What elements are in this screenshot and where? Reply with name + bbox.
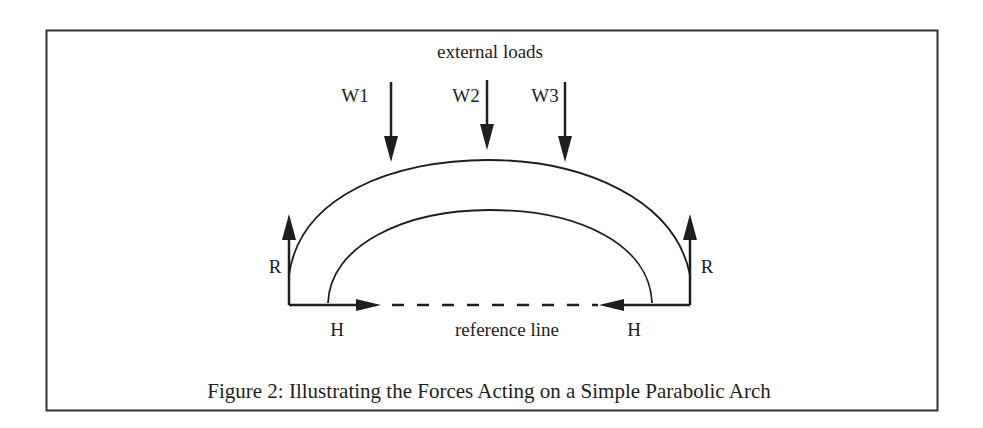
inner-arch [328,210,652,303]
thrust-left-label: H [330,319,344,340]
arrowhead-icon [599,299,624,311]
load-w2: W2 [452,80,494,150]
figure-caption: Figure 2: Illustrating the Forces Acting… [207,379,771,403]
outer-arch [289,160,690,275]
arrowhead-icon [282,214,296,240]
reaction-right-label: R [701,256,714,277]
arrowhead-icon [683,214,697,240]
reaction-right: R [683,214,714,305]
figure-frame [47,31,938,411]
external-loads-label: external loads [437,41,543,62]
arch-forces-diagram: external loads W1 W2 W3 R R H H [0,0,983,428]
load-w3: W3 [531,82,572,162]
thrust-right: H [599,299,690,340]
arrowhead-icon [356,299,381,311]
reaction-left-label: R [269,256,282,277]
thrust-right-label: H [627,319,641,340]
arrowhead-icon [480,124,494,150]
load-w1: W1 [341,82,398,162]
load-w1-label: W1 [341,85,368,106]
reference-line-label: reference line [455,319,559,340]
load-w2-label: W2 [452,85,479,106]
thrust-left: H [289,299,381,340]
load-w3-label: W3 [531,85,558,106]
arrowhead-icon [384,136,398,162]
arrowhead-icon [558,136,572,162]
